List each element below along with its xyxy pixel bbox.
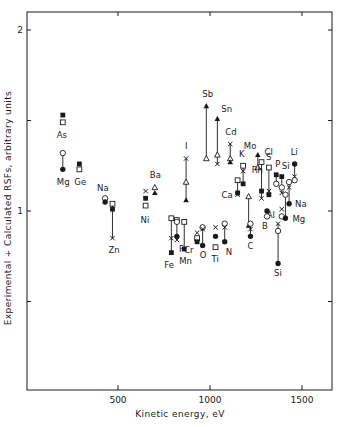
cross-marker <box>213 225 217 229</box>
axis-ticks: 5001000150012 <box>17 12 332 405</box>
filled-circle-marker <box>286 201 291 206</box>
element-point-group: Si <box>274 221 282 278</box>
element-point-group: Ca <box>222 178 240 200</box>
filled-square-marker <box>110 207 115 212</box>
element-point-group: Mg <box>57 150 70 187</box>
open-triangle-marker <box>183 179 189 184</box>
x-tick-label: 1000 <box>199 395 222 405</box>
filled-square-marker <box>169 250 174 255</box>
filled-square-marker <box>266 192 271 197</box>
element-point-group: Ge <box>74 162 86 188</box>
y-tick-label: 1 <box>17 206 23 216</box>
element-point-group: Ba <box>150 170 161 195</box>
open-triangle-marker <box>152 184 158 189</box>
element-point-group: As <box>57 113 68 141</box>
open-square-marker <box>60 120 65 125</box>
open-circle-marker <box>275 228 280 233</box>
element-label: Li <box>291 147 298 157</box>
element-point-group: Ni <box>141 189 150 225</box>
element-point-group: C <box>247 221 253 251</box>
open-triangle-marker <box>246 194 252 199</box>
filled-circle-marker <box>222 239 227 244</box>
element-label: Mg <box>57 177 70 187</box>
open-circle-marker <box>292 178 297 183</box>
open-circle-marker <box>283 192 288 197</box>
element-point-group: S <box>266 152 271 198</box>
open-triangle-marker <box>204 156 210 161</box>
element-point-group: N <box>222 221 232 257</box>
rsf-ratio-scatter-chart: 5001000150012 AsMgGeNaZnNiBaISbSnCdKCaMo… <box>0 0 351 427</box>
open-triangle-marker <box>215 152 221 157</box>
open-circle-marker <box>286 179 291 184</box>
filled-circle-marker <box>102 199 107 204</box>
element-label: Fe <box>164 260 174 270</box>
open-circle-marker <box>279 185 284 190</box>
element-label: Zn <box>108 245 119 255</box>
open-square-marker <box>241 163 246 168</box>
element-point-group: Cd <box>225 127 236 164</box>
element-point-group: Rh <box>246 165 263 228</box>
filled-circle-marker <box>283 216 288 221</box>
element-point-group: P <box>274 159 281 187</box>
open-square-marker <box>77 167 82 172</box>
filled-circle-marker <box>213 234 218 239</box>
element-point-group: Si <box>279 161 289 195</box>
open-square-marker <box>143 203 148 208</box>
element-point-group: Mn <box>179 219 192 266</box>
element-label: Cd <box>225 127 236 137</box>
element-label: Ca <box>222 190 233 200</box>
x-tick-label: 500 <box>109 395 126 405</box>
element-point-group: Zn <box>108 201 119 255</box>
open-square-marker <box>182 219 187 224</box>
open-square-marker <box>110 201 115 206</box>
element-label: Rh <box>252 165 263 175</box>
filled-circle-marker <box>60 167 65 172</box>
filled-square-marker <box>274 172 279 177</box>
element-label: B <box>262 221 268 231</box>
element-label: Na <box>295 199 307 209</box>
element-label: Si <box>274 268 282 278</box>
filled-square-marker <box>60 113 65 118</box>
cross-marker <box>143 189 147 193</box>
element-label: Ge <box>74 177 86 187</box>
plot-frame <box>27 12 332 390</box>
element-label: I <box>185 141 188 151</box>
element-point-group: Ti <box>211 225 219 264</box>
filled-circle-marker <box>292 161 297 166</box>
element-label: Mo <box>244 141 257 151</box>
element-label: Na <box>97 183 109 193</box>
element-point-group: Sb <box>202 89 213 161</box>
open-circle-marker <box>174 219 179 224</box>
element-point-group: Na <box>97 183 109 204</box>
y-axis-title: Experimental ÷ Calculated RSFs, arbitrar… <box>3 91 13 325</box>
x-tick-label: 1500 <box>291 395 314 405</box>
filled-square-marker <box>241 181 246 186</box>
x-axis-title: Kinetic energy, eV <box>135 409 225 419</box>
data-points: AsMgGeNaZnNiBaISbSnCdKCaMoClSPSiLiNaRhAl… <box>57 89 307 278</box>
filled-triangle-marker <box>255 152 261 157</box>
element-label: Mg <box>292 214 305 224</box>
open-circle-marker <box>248 221 253 226</box>
element-label: N <box>226 247 232 257</box>
filled-triangle-marker <box>152 190 158 195</box>
y-tick-label: 2 <box>17 25 23 35</box>
filled-square-marker <box>77 162 82 167</box>
element-label: O <box>200 250 207 260</box>
element-label: Mn <box>179 256 192 266</box>
cross-marker <box>195 231 199 235</box>
filled-square-marker <box>259 189 264 194</box>
element-label: Ni <box>141 215 150 225</box>
filled-triangle-marker <box>183 197 189 202</box>
open-circle-marker <box>264 214 269 219</box>
element-point-group: Cr <box>184 231 199 255</box>
open-square-marker <box>213 245 218 250</box>
filled-square-marker <box>195 239 200 244</box>
element-label: P <box>275 159 280 169</box>
filled-triangle-marker <box>215 116 221 121</box>
filled-triangle-marker <box>204 103 210 108</box>
element-label: C <box>247 241 253 251</box>
filled-square-marker <box>143 196 148 201</box>
filled-circle-marker <box>200 243 205 248</box>
open-square-marker <box>266 165 271 170</box>
cross-marker <box>280 207 284 211</box>
